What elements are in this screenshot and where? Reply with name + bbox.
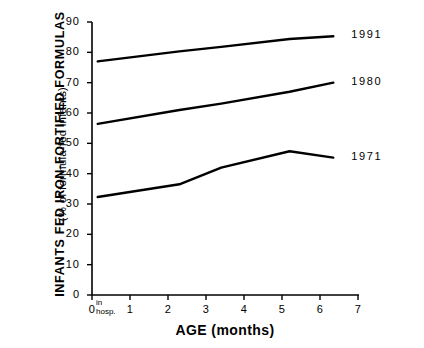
y-tick-label: 50 bbox=[54, 136, 80, 148]
y-axis-title-block: INFANTS FED IRON-FORTIFIED FORMULAS (% o… bbox=[0, 0, 62, 348]
y-tick-label: 90 bbox=[54, 15, 80, 27]
data-series-lines bbox=[98, 36, 334, 197]
x-tick-label: 6 bbox=[310, 303, 330, 315]
y-tick-label: 70 bbox=[54, 76, 80, 88]
axis-lines bbox=[92, 22, 359, 295]
y-tick-label: 10 bbox=[54, 258, 80, 270]
y-tick-label: 20 bbox=[54, 227, 80, 239]
x-tick-label: 2 bbox=[158, 303, 178, 315]
y-tick-label: 0 bbox=[54, 288, 80, 300]
x-tick-label: 5 bbox=[272, 303, 292, 315]
series-line-1980 bbox=[98, 83, 334, 124]
x-axis-title: AGE (months) bbox=[92, 322, 358, 338]
series-label-1991: 1991 bbox=[351, 28, 382, 40]
y-tick-label: 30 bbox=[54, 197, 80, 209]
x-tick-label: 3 bbox=[196, 303, 216, 315]
y-tick-label: 60 bbox=[54, 106, 80, 118]
y-tick-label: 40 bbox=[54, 167, 80, 179]
x-tick-label: 1 bbox=[120, 303, 140, 315]
x-tick-label: 7 bbox=[348, 303, 368, 315]
series-label-1971: 1971 bbox=[351, 150, 382, 162]
chart-figure: INFANTS FED IRON-FORTIFIED FORMULAS (% o… bbox=[0, 0, 424, 348]
x-tick-label: 0 bbox=[82, 303, 102, 315]
x-tick-label: 4 bbox=[234, 303, 254, 315]
y-tick-label: 80 bbox=[54, 45, 80, 57]
series-line-1971 bbox=[98, 151, 334, 197]
series-label-1980: 1980 bbox=[351, 75, 382, 87]
series-line-1991 bbox=[98, 36, 334, 61]
